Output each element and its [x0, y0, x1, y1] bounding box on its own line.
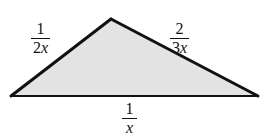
right-side-denominator: 3x: [170, 39, 189, 56]
right-side-numerator: 2: [174, 21, 186, 38]
right-side-length-label: 2 3x: [170, 21, 189, 56]
right-side-denominator-coefficient: 3: [172, 39, 180, 56]
triangle-figure: 1 2x 2 3x 1 x: [0, 0, 276, 138]
base-denominator-variable: x: [126, 119, 133, 136]
left-side-denominator-variable: x: [41, 39, 48, 56]
left-side-denominator-coefficient: 2: [33, 39, 41, 56]
base-denominator: x: [124, 119, 135, 136]
left-side-denominator: 2x: [31, 39, 50, 56]
right-side-denominator-variable: x: [180, 39, 187, 56]
left-side-numerator: 1: [35, 21, 47, 38]
base-length-label: 1 x: [122, 101, 137, 136]
base-numerator: 1: [124, 101, 136, 118]
left-side-length-label: 1 2x: [31, 21, 50, 56]
